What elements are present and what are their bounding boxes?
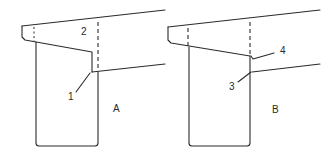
column-outline-a bbox=[36, 42, 98, 146]
panel-label-b: B bbox=[272, 104, 279, 115]
beam-cap-outline-b bbox=[168, 27, 250, 56]
notch-b bbox=[251, 53, 274, 59]
panel-b: 4 3 B bbox=[168, 10, 320, 146]
beam-lower-edge-b bbox=[252, 64, 320, 72]
callout-leader-3 bbox=[238, 72, 251, 82]
callout-label-1: 1 bbox=[68, 91, 74, 102]
beam-lower-edge-a bbox=[92, 64, 165, 72]
panel-label-a: A bbox=[113, 103, 120, 114]
column-outline-b bbox=[189, 47, 250, 146]
callout-leader-1 bbox=[76, 73, 90, 92]
panel-a: 2 1 A bbox=[22, 10, 165, 146]
beam-top-edge-b bbox=[168, 10, 320, 27]
callout-label-3: 3 bbox=[229, 81, 235, 92]
callout-label-4: 4 bbox=[280, 45, 286, 56]
diagram-canvas: 2 1 A 4 3 B bbox=[0, 0, 336, 158]
beam-top-edge-a bbox=[22, 10, 165, 26]
callout-label-2: 2 bbox=[81, 26, 87, 37]
